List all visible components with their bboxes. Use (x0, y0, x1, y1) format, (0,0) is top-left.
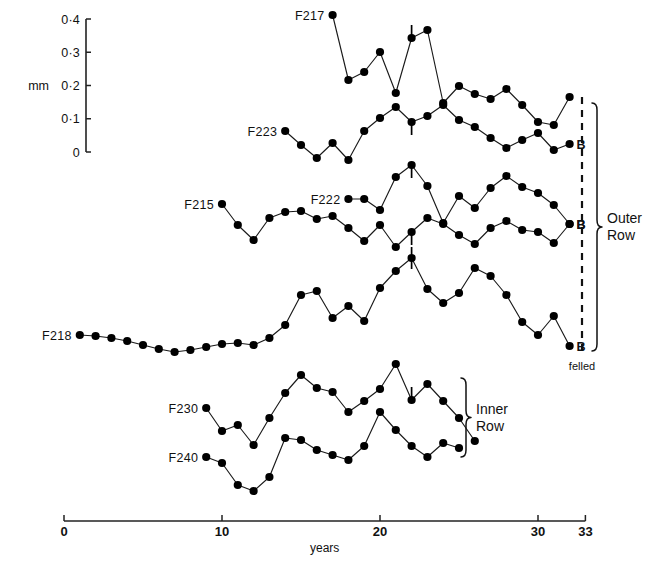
data-point (344, 408, 352, 416)
y-axis-unit-label: mm (28, 79, 49, 93)
data-point (423, 380, 431, 388)
data-point (566, 342, 574, 350)
data-point (518, 183, 526, 191)
data-point (218, 459, 226, 467)
y-axis: 0·40·30·20·10mm (28, 13, 91, 160)
data-point (313, 154, 321, 162)
data-point (234, 339, 242, 347)
data-point (218, 427, 226, 435)
data-point (455, 82, 463, 90)
data-point (360, 442, 368, 450)
data-point (376, 385, 384, 393)
data-point (107, 334, 115, 342)
data-point (297, 371, 305, 379)
data-point (455, 444, 463, 452)
data-point (313, 287, 321, 295)
data-point (550, 312, 558, 320)
data-point (281, 321, 289, 329)
data-point (329, 11, 337, 19)
y-tick-label: 0·2 (61, 79, 80, 93)
data-point (313, 384, 321, 392)
data-point (455, 192, 463, 200)
data-point (344, 224, 352, 232)
series-line (222, 204, 570, 247)
data-point (218, 340, 226, 348)
data-point (376, 48, 384, 56)
data-point (392, 173, 400, 181)
series-layer: F217F223BF222BF215BF218BF230F240 (42, 9, 586, 496)
data-point (360, 397, 368, 405)
data-point (281, 434, 289, 442)
data-point (550, 201, 558, 209)
data-point (566, 140, 574, 148)
data-point (297, 141, 305, 149)
data-point (123, 337, 131, 345)
data-point (455, 414, 463, 422)
data-point (518, 318, 526, 326)
data-point (423, 214, 431, 222)
data-point (281, 127, 289, 135)
data-point (250, 487, 258, 495)
data-point (202, 343, 210, 351)
data-point (92, 332, 100, 340)
series-f215: F215B (184, 198, 585, 252)
data-point (265, 334, 273, 342)
data-point (297, 291, 305, 299)
series-label-f240: F240 (168, 451, 198, 465)
series-label-f215: F215 (184, 198, 214, 212)
data-point (502, 172, 510, 180)
data-point (376, 221, 384, 229)
data-point (392, 243, 400, 251)
data-point (329, 451, 337, 459)
data-point (360, 237, 368, 245)
data-point (455, 231, 463, 239)
data-point (313, 215, 321, 223)
data-point (171, 348, 179, 356)
inner-row-label-line1: Inner (476, 401, 508, 417)
data-point (376, 114, 384, 122)
series-line (333, 15, 570, 125)
data-point (471, 240, 479, 248)
data-point (534, 189, 542, 197)
data-point (518, 101, 526, 109)
data-point (502, 144, 510, 152)
data-point (439, 220, 447, 228)
data-point (186, 346, 194, 354)
data-point (502, 291, 510, 299)
data-point (329, 139, 337, 147)
data-point (439, 397, 447, 405)
x-axis-title: years (310, 541, 339, 555)
data-point (376, 206, 384, 214)
data-point (76, 331, 84, 339)
data-point (360, 317, 368, 325)
data-point (423, 285, 431, 293)
series-f218: F218B (42, 254, 586, 356)
series-label-f217: F217 (295, 9, 325, 23)
series-label-f223: F223 (247, 125, 277, 139)
data-point (250, 441, 258, 449)
data-point (423, 26, 431, 34)
data-point (471, 437, 479, 445)
data-point (392, 267, 400, 275)
figure-root: 0·40·30·20·10mm 010203033years F217F223B… (0, 0, 647, 563)
data-point (265, 473, 273, 481)
data-point (487, 134, 495, 142)
data-point (297, 207, 305, 215)
data-point (376, 408, 384, 416)
data-point (455, 289, 463, 297)
data-point (550, 146, 558, 154)
data-point (234, 481, 242, 489)
outer-row-brace (592, 103, 602, 351)
x-tick-label: 10 (215, 524, 229, 539)
data-point (392, 426, 400, 434)
data-point (471, 204, 479, 212)
x-axis: 010203033years (60, 515, 592, 555)
data-point (408, 442, 416, 450)
series-f222: F222B (311, 161, 586, 232)
data-point (360, 68, 368, 76)
data-point (534, 228, 542, 236)
data-point (344, 156, 352, 164)
data-point (392, 103, 400, 111)
data-point (534, 331, 542, 339)
inner-row-label-line2: Row (476, 418, 505, 434)
